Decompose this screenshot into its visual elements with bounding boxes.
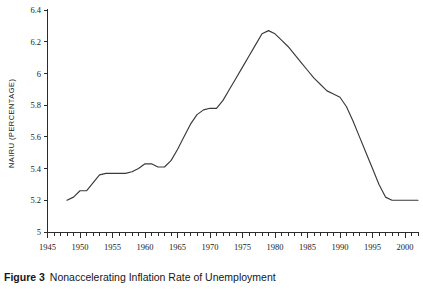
y-tick-label: 5.6 (30, 132, 41, 142)
x-tick-label: 1995 (364, 242, 381, 252)
x-tick-label: 1975 (234, 242, 251, 252)
y-tick-label: 5.2 (30, 195, 41, 205)
figure-caption: Figure 3Nonaccelerating Inflation Rate o… (4, 270, 419, 284)
x-tick-label: 1960 (137, 242, 154, 252)
data-series-group (67, 31, 418, 201)
x-tick-label: 1985 (299, 242, 316, 252)
x-tick-label: 1945 (39, 242, 56, 252)
figure-caption-label: Figure 3 (4, 271, 45, 283)
y-axis-label: NAIRU (PERCENTAGE) (7, 79, 16, 168)
x-tick-label: 2000 (397, 242, 414, 252)
y-axis-label-text: NAIRU (PERCENTAGE) (7, 79, 16, 168)
x-tick-label: 1965 (169, 242, 186, 252)
figure-caption-title: Nonaccelerating Inflation Rate of Unempl… (45, 271, 276, 283)
y-tick-label: 5.4 (30, 164, 41, 174)
x-tick-label: 1970 (202, 242, 219, 252)
x-axis-ticks: 1945195019551960196519701975198019851990… (39, 233, 418, 253)
x-tick-label: 1955 (104, 242, 121, 252)
figure-container: NAIRU (PERCENTAGE) 55.25.45.65.866.26.4 … (0, 0, 423, 295)
x-tick-label: 1990 (332, 242, 349, 252)
x-tick-label: 1950 (72, 242, 89, 252)
x-tick-label: 1980 (267, 242, 284, 252)
y-tick-label: 6.4 (30, 5, 41, 15)
nairu-line-chart: NAIRU (PERCENTAGE) 55.25.45.65.866.26.4 … (0, 0, 423, 295)
y-axis-ticks: 55.25.45.65.866.26.4 (30, 5, 47, 237)
y-tick-label: 6.2 (30, 37, 41, 47)
y-tick-label: 6 (37, 69, 41, 79)
series-line-nairu (67, 31, 418, 201)
y-tick-label: 5 (37, 227, 41, 237)
y-tick-label: 5.8 (30, 100, 41, 110)
